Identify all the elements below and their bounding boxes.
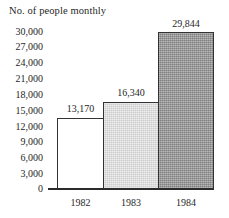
x-axis-label-1984: 1984 [159, 198, 213, 208]
x-axis-label-1982: 1982 [55, 198, 106, 208]
bar-value-label-1982: 13,170 [55, 104, 106, 114]
x-axis-line [48, 188, 214, 190]
plot-area: 30,000 27,000 24,000 21,000 18,000 15,00… [0, 0, 229, 218]
bar-1983 [103, 102, 159, 189]
bar-value-label-1984: 29,844 [159, 19, 213, 29]
bar-chart: No. of people monthly 30,000 27,000 24,0… [0, 0, 229, 218]
bar-1982 [57, 118, 104, 189]
bar-1984 [158, 32, 214, 189]
bar-series [0, 0, 229, 218]
bar-value-label-1983: 16,340 [104, 88, 158, 98]
x-axis-label-1983: 1983 [104, 198, 158, 208]
